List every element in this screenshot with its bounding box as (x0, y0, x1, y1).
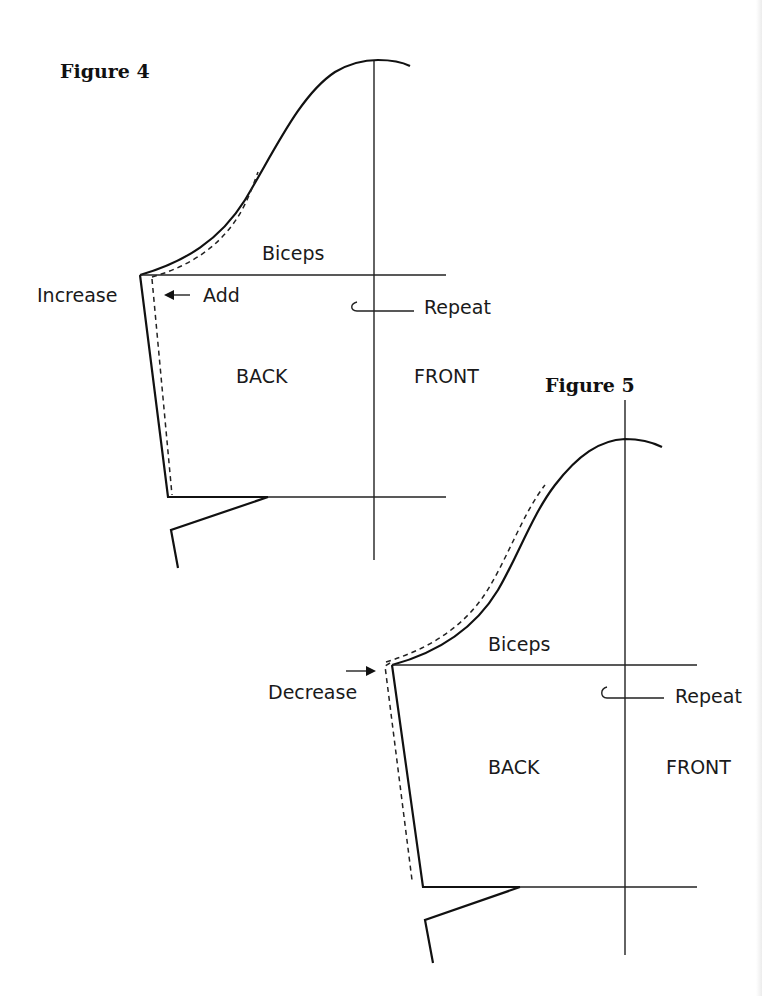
figure-4-hem-notch (171, 497, 268, 568)
figure-4-title: Figure 4 (60, 60, 150, 82)
figure-5-front-label: FRONT (666, 756, 731, 778)
figure-4-repeat-hook (352, 302, 414, 311)
figure-5-biceps-label: Biceps (488, 633, 550, 655)
figure-4-front-label: FRONT (414, 365, 479, 387)
figure-5-title: Figure 5 (545, 374, 635, 396)
figure-4-biceps-label: Biceps (262, 242, 324, 264)
figure-4: Figure 4 Biceps Increase Add Repeat BACK… (37, 60, 491, 568)
figure-4-increase-label: Increase (37, 284, 117, 306)
figure-5-decrease-arrow-icon (366, 666, 376, 676)
figure-5-hem-notch (425, 887, 520, 963)
figure-4-repeat-label: Repeat (424, 296, 491, 318)
figure-5: Figure 5 Biceps Decrease Repeat BACK FRO… (268, 374, 742, 963)
figure-4-dashed-cap (152, 172, 258, 277)
figure-4-back-label: BACK (236, 365, 288, 387)
figure-5-repeat-hook (602, 687, 664, 698)
figure-5-repeat-label: Repeat (675, 685, 742, 707)
figure-4-add-arrow-icon (164, 290, 174, 300)
figure-5-decrease-label: Decrease (268, 681, 357, 703)
sleeve-pattern-diagrams: Figure 4 Biceps Increase Add Repeat BACK… (0, 0, 762, 996)
figure-5-back-label: BACK (488, 756, 540, 778)
figure-4-add-label: Add (203, 284, 240, 306)
figure-5-sleeve-cap (392, 439, 662, 665)
